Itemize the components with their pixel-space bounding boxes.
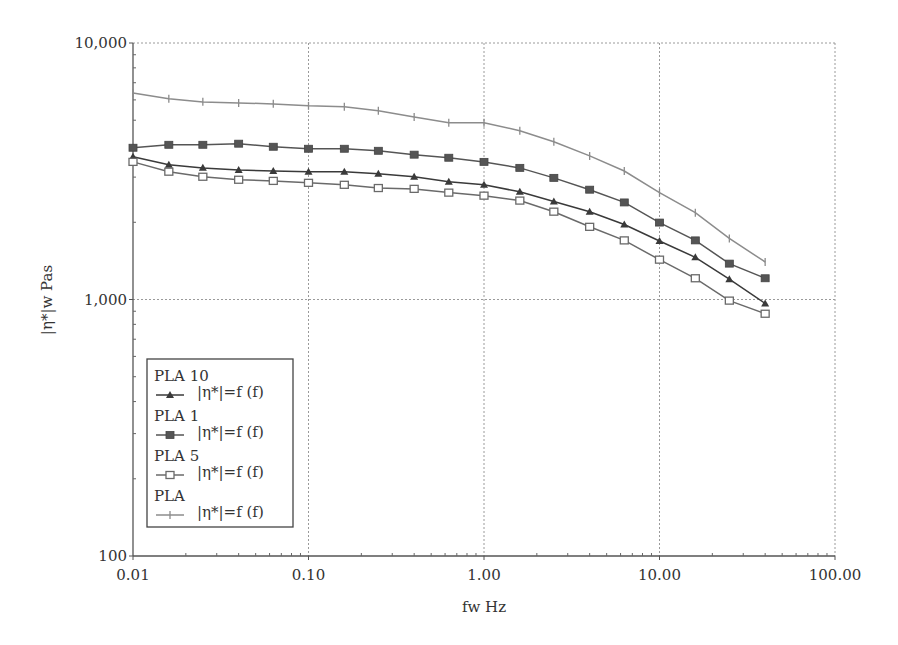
open-square-marker <box>199 173 207 180</box>
series-line <box>133 144 765 279</box>
y-tick-label: 100 <box>98 547 127 565</box>
series-line <box>133 162 765 314</box>
open-square-marker <box>586 223 594 230</box>
square-marker <box>516 164 524 171</box>
square-marker <box>269 143 277 150</box>
square-marker <box>410 151 418 158</box>
x-tick-label: 100.00 <box>809 566 862 584</box>
square-marker <box>445 154 453 161</box>
open-square-marker <box>410 185 418 192</box>
square-marker <box>374 147 382 154</box>
y-axis-ticks: 1001,00010,000 <box>75 34 137 565</box>
square-marker <box>340 145 348 152</box>
legend-series-name: PLA 5 <box>154 447 199 465</box>
data-series <box>129 89 769 317</box>
x-tick-label: 0.01 <box>116 566 149 584</box>
open-square-marker <box>166 472 174 479</box>
square-marker <box>725 260 733 267</box>
y-tick-label: 1,000 <box>84 291 127 309</box>
legend-series-name: PLA 1 <box>154 407 199 425</box>
open-square-marker <box>691 275 699 282</box>
square-marker <box>620 199 628 206</box>
series-pla <box>133 89 765 266</box>
triangle-marker <box>725 275 733 282</box>
square-marker <box>480 158 488 165</box>
square-marker <box>199 141 207 148</box>
open-square-marker <box>620 237 628 244</box>
square-marker <box>761 275 769 282</box>
y-tick-label: 10,000 <box>75 34 128 52</box>
open-square-marker <box>374 185 382 192</box>
x-tick-label: 10.00 <box>638 566 681 584</box>
legend-series-label: |η*|=f (f) <box>197 503 264 521</box>
square-marker <box>129 144 137 151</box>
open-square-marker <box>550 208 558 215</box>
open-square-marker <box>165 168 173 175</box>
legend-series-label: |η*|=f (f) <box>197 463 264 481</box>
open-square-marker <box>235 176 243 183</box>
open-square-marker <box>305 179 313 186</box>
series-pla-1 <box>129 140 769 282</box>
square-marker <box>691 237 699 244</box>
square-marker <box>656 219 664 226</box>
open-square-marker <box>340 181 348 188</box>
open-square-marker <box>129 158 137 165</box>
series-line <box>133 93 765 262</box>
legend-series-name: PLA <box>154 487 185 505</box>
open-square-marker <box>656 256 664 263</box>
x-tick-label: 1.00 <box>467 566 500 584</box>
legend: PLA 10|η*|=f (f)PLA 1|η*|=f (f)PLA 5|η*|… <box>147 359 293 527</box>
x-axis-title: fw Hz <box>462 598 506 616</box>
open-square-marker <box>445 189 453 196</box>
open-square-marker <box>761 310 769 317</box>
square-marker <box>550 174 558 181</box>
x-tick-label: 0.10 <box>292 566 325 584</box>
triangle-marker <box>656 237 664 244</box>
square-marker <box>586 186 594 193</box>
chart: 0.010.101.0010.00100.00 1001,00010,000 f… <box>0 0 898 645</box>
square-marker <box>235 140 243 147</box>
legend-series-label: |η*|=f (f) <box>197 383 264 401</box>
open-square-marker <box>725 297 733 304</box>
open-square-marker <box>269 177 277 184</box>
square-marker <box>165 141 173 148</box>
x-axis-ticks: 0.010.101.0010.00100.00 <box>116 553 861 584</box>
open-square-marker <box>516 197 524 204</box>
square-marker <box>166 432 174 439</box>
open-square-marker <box>480 192 488 199</box>
y-axis-title: |η*|w Pas <box>38 265 56 335</box>
square-marker <box>305 145 313 152</box>
triangle-marker <box>761 299 769 306</box>
legend-series-label: |η*|=f (f) <box>197 423 264 441</box>
